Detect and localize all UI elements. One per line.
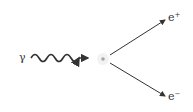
pair-production-diagram xyxy=(0,0,193,112)
electron-line xyxy=(110,63,165,96)
photon-label: γ xyxy=(19,52,26,63)
photon-wavy-line xyxy=(31,55,79,62)
positron-label: e+ xyxy=(168,12,180,23)
positron-charge: + xyxy=(175,11,181,19)
electron-label: e− xyxy=(168,91,180,102)
positron-line xyxy=(110,20,165,55)
electron-charge: − xyxy=(175,90,181,98)
